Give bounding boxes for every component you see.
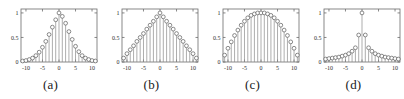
stem-marker (155, 15, 159, 19)
x-tick-label: 10 (89, 65, 95, 71)
stem-marker (269, 13, 273, 17)
stem-marker (229, 40, 233, 44)
stem-marker (151, 19, 155, 23)
stem-marker (276, 19, 280, 23)
plot-area-a: -10-5051000.51 (0, 0, 101, 78)
stem-marker (37, 50, 41, 54)
stem-marker (80, 54, 84, 58)
stem-marker (239, 23, 243, 27)
panel-caption-c: (c) (245, 77, 260, 93)
x-tick-label: -10 (123, 65, 131, 71)
plot-area-b: -10-5051000.51 (101, 0, 202, 78)
x-tick-label: 0 (159, 65, 162, 71)
y-tick-label: 0 (319, 59, 322, 65)
panel-caption-d: (d) (346, 77, 362, 93)
stem-marker (41, 45, 45, 49)
panel-caption-b: (b) (144, 77, 160, 93)
stem-marker (223, 53, 227, 57)
plot-area-c: -10-5051000.51 (202, 0, 303, 78)
stem-marker (370, 49, 374, 53)
stem-plot-figure: -10-5051000.51 (a) -10-5051000.51 (b) -1… (0, 0, 404, 99)
plot-area-d: -10-5051000.51 (303, 0, 404, 78)
stem-marker (132, 44, 136, 48)
stem-marker (181, 39, 185, 43)
panel-b: -10-5051000.51 (b) (101, 0, 202, 99)
x-tick-label: -10 (22, 65, 30, 71)
stem-marker (34, 54, 38, 58)
stem-marker (350, 49, 354, 53)
stem-marker (191, 52, 195, 56)
stem-marker (67, 30, 71, 34)
stem-marker (161, 15, 165, 19)
x-tick-label: 10 (392, 65, 398, 71)
stem-marker (77, 50, 81, 54)
stem-marker (360, 11, 364, 15)
stem-marker (185, 44, 189, 48)
stem-marker (128, 48, 132, 52)
x-tick-label: 5 (74, 65, 77, 71)
stem-marker (289, 40, 293, 44)
stem-marker (188, 48, 192, 52)
x-tick-label: 0 (361, 65, 364, 71)
stem-marker (236, 28, 240, 32)
x-tick-label: 5 (276, 65, 279, 71)
stem-marker (142, 32, 146, 36)
stem-marker (74, 44, 78, 48)
x-tick-label: 0 (58, 65, 61, 71)
stem-marker (178, 36, 182, 40)
y-tick-label: 0.5 (213, 35, 221, 41)
stem-marker (47, 33, 51, 37)
x-tick-label: -5 (141, 65, 146, 71)
stem-marker (279, 23, 283, 27)
stem-marker (148, 23, 152, 27)
y-tick-label: 0 (218, 59, 221, 65)
y-tick-label: 1 (319, 10, 322, 16)
stem-marker (292, 46, 296, 50)
stem-marker (282, 28, 286, 32)
stem-marker (64, 21, 68, 25)
stem-marker (135, 39, 139, 43)
x-tick-label: -5 (40, 65, 45, 71)
x-tick-label: 0 (260, 65, 263, 71)
y-tick-label: 0 (117, 59, 120, 65)
stem-marker (44, 39, 48, 43)
stem-marker (171, 27, 175, 31)
stem-marker (50, 25, 54, 29)
x-tick-label: -10 (325, 65, 333, 71)
stem-series (21, 11, 97, 63)
y-tick-label: 1 (218, 10, 221, 16)
stem-marker (243, 19, 247, 23)
x-tick-label: 10 (190, 65, 196, 71)
stem-series (223, 11, 299, 62)
stem-marker (286, 34, 290, 38)
stem-marker (363, 33, 367, 37)
stem-marker (138, 36, 142, 40)
y-tick-label: 1 (117, 10, 120, 16)
x-tick-label: -10 (224, 65, 232, 71)
stem-marker (194, 56, 198, 60)
stem-series (122, 11, 198, 62)
stem-marker (60, 14, 64, 18)
y-tick-label: 0.5 (314, 35, 322, 41)
stem-marker (295, 53, 299, 57)
stem-marker (347, 52, 351, 56)
stem-marker (125, 52, 129, 56)
stem-marker (246, 16, 250, 20)
panel-caption-a: (a) (43, 77, 58, 93)
stem-series (324, 11, 400, 62)
x-tick-label: 5 (377, 65, 380, 71)
y-tick-label: 0 (16, 59, 19, 65)
y-tick-label: 0.5 (112, 35, 120, 41)
stem-marker (226, 46, 230, 50)
stem-marker (175, 32, 179, 36)
stem-marker (165, 19, 169, 23)
stem-marker (396, 57, 400, 61)
y-tick-label: 1 (16, 10, 19, 16)
panel-d: -10-5051000.51 (d) (303, 0, 404, 99)
stem-marker (353, 46, 357, 50)
stem-marker (367, 46, 371, 50)
x-tick-label: -5 (242, 65, 247, 71)
panel-a: -10-5051000.51 (a) (0, 0, 101, 99)
stem-marker (93, 59, 97, 63)
panel-c: -10-5051000.51 (c) (202, 0, 303, 99)
